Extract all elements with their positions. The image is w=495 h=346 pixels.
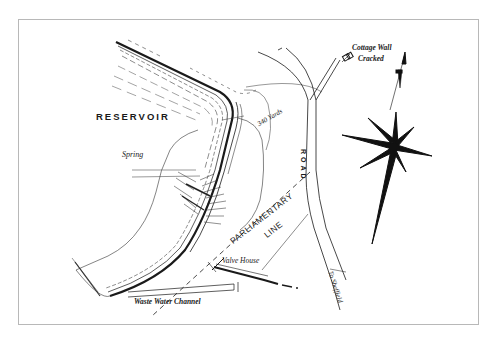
spring-label: Spring — [122, 150, 143, 159]
cottage-icon — [342, 52, 353, 62]
waste-water-channel — [128, 282, 238, 297]
spring-channels — [132, 170, 200, 177]
compass-rose-icon — [342, 52, 432, 244]
road-label: ROAD — [300, 149, 307, 182]
waste-water-channel-label: Waste Water Channel — [134, 297, 201, 306]
valve-house-label: Valve House — [222, 256, 259, 265]
cottage-label-line2: Cracked — [358, 54, 384, 63]
breach-area — [72, 118, 264, 296]
cottage-label-line1: Cottage Wall — [352, 43, 392, 52]
reservoir-label: RESERVOIR — [96, 111, 170, 122]
map-drawing — [0, 0, 495, 346]
